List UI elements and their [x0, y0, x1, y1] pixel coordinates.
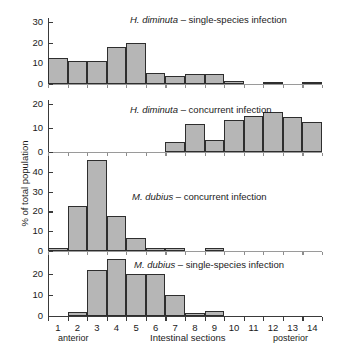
histogram-bar — [126, 274, 146, 316]
x-tick — [87, 317, 88, 321]
x-tick-minor — [224, 153, 225, 156]
panel-title-condition: – concurrent infection — [178, 104, 271, 115]
histogram-bar — [48, 248, 68, 251]
x-tick-minor — [185, 153, 186, 156]
x-tick-minor — [68, 85, 69, 88]
y-tick — [49, 231, 53, 232]
x-tick-minor — [263, 153, 264, 156]
y-tick — [49, 251, 53, 252]
x-tick-minor — [263, 252, 264, 255]
histogram-bar — [165, 142, 185, 152]
histogram-bar — [48, 58, 68, 84]
x-tick-label: 14 — [303, 322, 321, 333]
y-axis-line — [48, 156, 49, 251]
x-tick-minor — [263, 85, 264, 88]
histogram-bar — [146, 274, 166, 316]
x-tick-minor — [302, 85, 303, 88]
y-axis-line — [48, 100, 49, 152]
x-tick-label: 10 — [225, 322, 243, 333]
x-tick-label: 13 — [284, 322, 302, 333]
y-tick — [49, 43, 53, 44]
histogram-bar — [87, 160, 107, 251]
x-tick-minor — [126, 85, 127, 88]
x-tick-minor — [68, 252, 69, 255]
histogram-bar — [244, 116, 264, 152]
x-tick — [322, 317, 323, 321]
x-tick-label: 5 — [127, 322, 145, 333]
histogram-bar — [107, 259, 127, 316]
y-tick-label: 0 — [23, 311, 43, 321]
x-tick — [302, 317, 303, 321]
panel-title-species: M. dubius — [132, 191, 173, 202]
x-tick-minor — [48, 85, 49, 88]
x-tick-minor — [224, 252, 225, 255]
x-tick-minor — [205, 252, 206, 255]
x-tick-label: 4 — [108, 322, 126, 333]
histogram-bar — [146, 248, 166, 251]
y-tick-label: 10 — [23, 226, 43, 236]
x-tick-minor — [165, 153, 166, 156]
histogram-bar — [185, 74, 205, 84]
posterior-caption: posterior — [273, 333, 308, 343]
x-tick-minor — [87, 85, 88, 88]
x-tick-minor — [224, 85, 225, 88]
x-tick-minor — [107, 85, 108, 88]
x-tick-minor — [87, 153, 88, 156]
x-tick — [224, 317, 225, 321]
y-tick — [49, 152, 53, 153]
x-tick-minor — [244, 153, 245, 156]
x-tick-label: 12 — [264, 322, 282, 333]
x-tick — [283, 317, 284, 321]
histogram-bar — [205, 140, 225, 152]
anterior-caption: anterior — [58, 333, 89, 343]
x-tick-minor — [107, 153, 108, 156]
y-tick-label: 40 — [23, 167, 43, 177]
histogram-bar — [205, 74, 225, 84]
y-tick-label: 0 — [23, 147, 43, 157]
y-axis-line — [48, 255, 49, 316]
x-tick — [146, 317, 147, 321]
x-tick-minor — [68, 153, 69, 156]
x-tick-minor — [283, 153, 284, 156]
x-tick-minor — [185, 85, 186, 88]
x-tick-minor — [48, 153, 49, 156]
panel-title-species: H. diminuta — [130, 14, 178, 25]
x-tick-label: 1 — [49, 322, 67, 333]
histogram-bar — [68, 61, 88, 84]
x-tick-minor — [165, 252, 166, 255]
panel-title-condition: – concurrent infection — [173, 191, 266, 202]
x-tick-minor — [302, 153, 303, 156]
x-tick-minor — [146, 252, 147, 255]
x-tick-minor — [87, 252, 88, 255]
x-tick — [126, 317, 127, 321]
y-tick-label: 20 — [23, 99, 43, 109]
histogram-bar — [302, 122, 322, 152]
x-tick — [244, 317, 245, 321]
x-tick-minor — [244, 252, 245, 255]
histogram-bar — [302, 82, 322, 84]
x-tick — [185, 317, 186, 321]
x-tick — [107, 317, 108, 321]
histogram-bar — [87, 270, 107, 316]
y-tick-label: 20 — [23, 206, 43, 216]
histogram-bar — [205, 248, 225, 251]
y-tick — [49, 192, 53, 193]
y-tick-label: 30 — [23, 17, 43, 27]
y-tick — [49, 295, 53, 296]
histogram-bar — [68, 206, 88, 251]
x-tick — [263, 317, 264, 321]
histogram-bar — [126, 238, 146, 251]
histogram-bar — [263, 82, 283, 84]
x-tick-minor — [126, 153, 127, 156]
x-tick — [205, 317, 206, 321]
x-tick-minor — [283, 85, 284, 88]
histogram-bar — [87, 61, 107, 84]
histogram-bar — [165, 248, 185, 251]
y-tick — [49, 22, 53, 23]
panel-title: H. diminuta – single-species infection — [130, 14, 287, 25]
panel-title: M. dubius – concurrent infection — [132, 191, 267, 202]
x-tick-label: 11 — [245, 322, 263, 333]
y-tick-label: 30 — [23, 187, 43, 197]
x-tick-minor — [146, 153, 147, 156]
x-tick-minor — [205, 85, 206, 88]
